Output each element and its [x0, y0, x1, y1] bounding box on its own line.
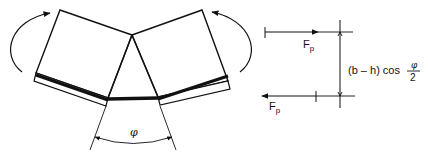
fraction-denominator: 2 [410, 72, 416, 83]
angle-phi-label: φ [130, 126, 138, 139]
left-block [34, 10, 132, 106]
force-bottom-label: Fp [269, 100, 281, 115]
force-diagram [262, 20, 355, 108]
dimension-expression: (b – h) cos [348, 64, 400, 76]
right-block [132, 10, 230, 105]
force-top-label: Fp [303, 38, 315, 53]
bending-diagram: φ Fp Fp (b – h) cos φ 2 [0, 0, 428, 156]
fraction-numerator: φ [411, 60, 418, 70]
